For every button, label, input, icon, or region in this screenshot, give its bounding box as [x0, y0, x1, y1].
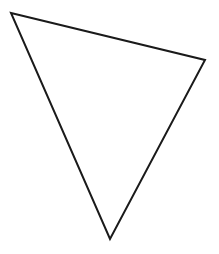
triangle-diagram: [0, 0, 219, 254]
triangle-shape: [11, 13, 205, 239]
diagram-canvas: [0, 0, 219, 254]
